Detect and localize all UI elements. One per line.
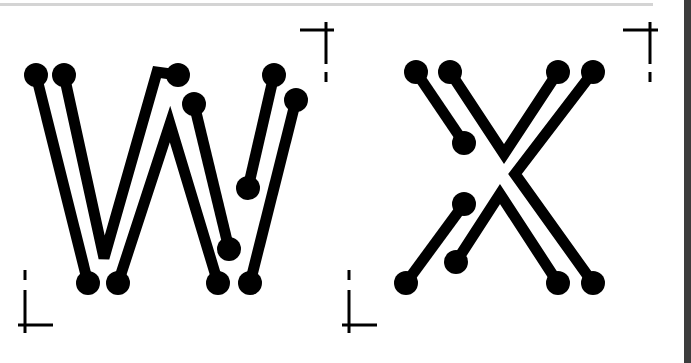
x-pad-mid-2 [452,192,476,216]
x-pad-bottom-1 [394,271,418,295]
x-pad-top-2 [438,60,462,84]
x-pad-mid-1 [452,131,476,155]
x-pad-bottom-2 [546,271,570,295]
x-trace-3 [515,72,593,283]
w-pad-bottom-2 [106,271,130,295]
x-pad-top-1 [404,60,428,84]
w-pad-top-1 [24,63,48,87]
artwork-canvas: W X [0,0,691,363]
x-pad-top-4 [581,60,605,84]
w-pad-top-5 [262,63,286,87]
w-pad-top-4 [182,92,206,116]
w-pad-bottom-4 [238,271,262,295]
w-pad-top-3 [166,63,190,87]
circuit-traces [36,72,593,283]
circuit-letters-graphic [0,0,691,363]
w-pad-top-2 [52,63,76,87]
w-pad-mid-1 [236,176,260,200]
x-pad-top-3 [546,60,570,84]
w-trace-5 [248,75,274,188]
w-pad-top-6 [284,88,308,112]
w-pad-mid-2 [217,237,241,261]
x-pad-bottom-3 [581,271,605,295]
w-pad-bottom-1 [76,271,100,295]
w-pad-bottom-3 [206,271,230,295]
x-pad-mid-3 [444,250,468,274]
w-trace-1 [36,75,88,283]
